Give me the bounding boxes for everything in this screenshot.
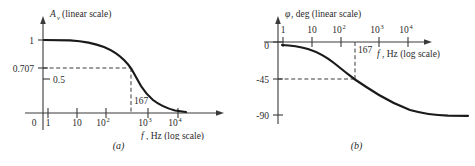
- y-tick-label-minus90: -90: [256, 111, 269, 121]
- figure-panel-a: 1 0.707 0.5 0 1 10 10 2 10 3 10 4 167: [0, 0, 237, 166]
- cutoff-annotation-167: 167: [358, 45, 373, 55]
- svg-text:f: f: [377, 49, 381, 59]
- x-tick-label-10000: 10 4: [168, 116, 182, 129]
- origin-label: 0: [32, 118, 37, 128]
- y-tick-label-minus45: -45: [256, 75, 269, 85]
- y-axis-arrowhead: [275, 16, 281, 24]
- svg-text:v: v: [57, 14, 60, 21]
- svg-text:3: 3: [380, 23, 383, 30]
- svg-text:f: f: [141, 131, 145, 140]
- svg-text:3: 3: [148, 116, 151, 123]
- svg-text:, Hz (log scale): , Hz (log scale): [382, 49, 440, 60]
- panel-caption-b: (b): [238, 140, 475, 151]
- x-tick-label-100: 10 2: [96, 116, 109, 129]
- phase-plot: 0 -45 -90 1 10 10 2 10 3 10 4 167 φ: [238, 0, 475, 140]
- svg-text:φ: φ: [285, 9, 290, 19]
- y-axis-title: φ , deg (linear scale): [285, 9, 361, 20]
- y-inner-label-05: 0.5: [53, 75, 65, 85]
- phase-plot-svg: 0 -45 -90 1 10 10 2 10 3 10 4 167 φ: [238, 0, 475, 140]
- svg-text:2: 2: [106, 116, 109, 123]
- magnitude-plot-svg: 1 0.707 0.5 0 1 10 10 2 10 3 10 4 167: [0, 0, 237, 140]
- phase-response-curve: [282, 45, 468, 116]
- svg-text:, Hz (log scale): , Hz (log scale): [146, 131, 204, 140]
- svg-text:10: 10: [332, 25, 342, 35]
- x-tick-label-10: 10: [307, 25, 317, 35]
- x-axis-title: f , Hz (log scale): [141, 131, 204, 140]
- svg-text:4: 4: [409, 23, 413, 30]
- x-axis-arrowhead: [216, 110, 224, 116]
- svg-text:10: 10: [370, 25, 380, 35]
- svg-text:10: 10: [138, 118, 148, 128]
- magnitude-response-curve: [44, 40, 186, 112]
- svg-text:4: 4: [178, 116, 182, 123]
- svg-text:(linear scale): (linear scale): [62, 9, 111, 20]
- x-tick-label-1000: 10 3: [370, 23, 383, 36]
- y-tick-label-1: 1: [29, 36, 34, 46]
- magnitude-plot: 1 0.707 0.5 0 1 10 10 2 10 3 10 4 167: [0, 0, 237, 140]
- figure-panel-b: 0 -45 -90 1 10 10 2 10 3 10 4 167 φ: [238, 0, 475, 166]
- svg-text:10: 10: [168, 118, 178, 128]
- y-axis-arrowhead: [40, 16, 46, 24]
- y-axis-title: A v (linear scale): [49, 9, 111, 21]
- svg-text:2: 2: [342, 23, 345, 30]
- svg-text:, deg (linear scale): , deg (linear scale): [291, 9, 361, 20]
- x-tick-label-100: 10 2: [332, 23, 345, 36]
- x-tick-label-1000: 10 3: [138, 116, 151, 129]
- x-tick-label-1: 1: [46, 118, 51, 128]
- x-tick-label-1: 1: [281, 25, 286, 35]
- panel-caption-a: (a): [0, 140, 237, 151]
- x-axis-title: f , Hz (log scale): [377, 49, 440, 60]
- svg-text:10: 10: [96, 118, 106, 128]
- x-axis-arrowhead: [424, 39, 432, 45]
- svg-text:10: 10: [399, 25, 409, 35]
- y-tick-label-0707: 0.707: [13, 64, 35, 74]
- x-tick-label-10: 10: [72, 118, 82, 128]
- x-tick-label-10000: 10 4: [399, 23, 413, 36]
- svg-text:A: A: [49, 9, 56, 19]
- cutoff-annotation-167: 167: [134, 96, 149, 106]
- y-tick-label-0: 0: [264, 41, 269, 51]
